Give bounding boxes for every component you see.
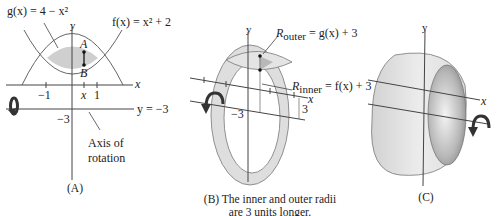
g-function-label: g(x) = 4 − x² [7, 5, 68, 17]
caption-c: (C) [411, 191, 441, 204]
rotation-arrow-icon [468, 116, 489, 137]
caption-b: (B) The inner and outer radiiare 3 units… [200, 193, 340, 216]
x-axis-label: x [308, 93, 313, 105]
axis-note-line1: Axis of [88, 137, 124, 149]
x-axis-label: x [481, 95, 486, 107]
axis-note-line2: rotation [88, 152, 125, 164]
panel-c-solid [368, 30, 489, 186]
point-b-label: B [80, 67, 87, 79]
tick-neg1-label: −1 [38, 89, 51, 101]
point-a-label: A [80, 38, 87, 50]
rotation-arrow-icon [8, 98, 18, 116]
r-inner-label: Rinner = f(x) + 3 [292, 80, 371, 95]
tick-neg3-label: −3 [231, 108, 244, 120]
tick-1-label: 1 [94, 89, 100, 101]
x-axis-label: x [135, 78, 140, 90]
tick-neg3-label: −3 [57, 113, 70, 125]
r-outer-label: Router = g(x) + 3 [276, 27, 357, 42]
dimension-3-label: 3 [302, 103, 308, 115]
y-axis-label: y [70, 20, 76, 31]
y-axis-label: y [422, 22, 428, 33]
axis-line-label: y = −3 [137, 103, 169, 115]
y-axis-label: y [246, 24, 252, 35]
panel-b-graph [190, 32, 308, 185]
caption-a: (A) [60, 182, 90, 195]
f-function-label: f(x) = x² + 2 [112, 16, 171, 28]
tick-x-label: x [81, 89, 86, 101]
